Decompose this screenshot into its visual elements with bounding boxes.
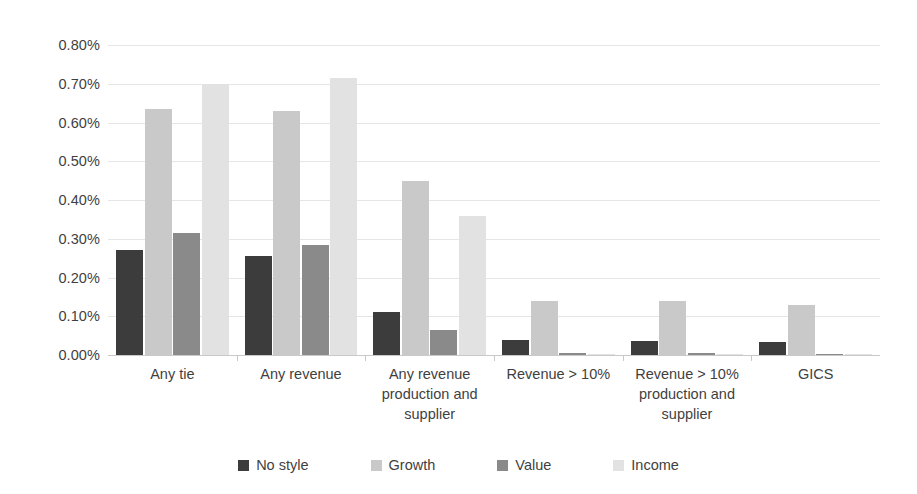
legend-item[interactable]: Income	[613, 457, 679, 473]
bar	[502, 340, 529, 356]
bar	[559, 353, 586, 355]
bar	[245, 256, 272, 355]
bar	[659, 301, 686, 355]
x-axis: Any tieAny revenueAny revenueproduction …	[108, 364, 880, 442]
bar-group	[237, 45, 366, 355]
x-axis-category-line: supplier	[365, 404, 494, 424]
y-axis-tick-label: 0.50%	[28, 154, 100, 169]
y-axis-tick-label: 0.20%	[28, 271, 100, 286]
x-axis-tick	[237, 355, 238, 361]
bar	[145, 109, 172, 355]
y-axis-tick-label: 0.40%	[28, 193, 100, 208]
x-axis-category-line: Any revenue	[237, 364, 366, 384]
x-axis-category-line: production and	[365, 384, 494, 404]
legend-item-label: No style	[256, 457, 308, 473]
bar	[273, 111, 300, 355]
legend-swatch-icon	[238, 460, 249, 471]
bar	[631, 341, 658, 355]
x-axis-category-line: Any tie	[108, 364, 237, 384]
legend-item-label: Income	[631, 457, 679, 473]
bar	[459, 216, 486, 356]
bar	[430, 330, 457, 355]
bar	[373, 312, 400, 355]
bar	[816, 354, 843, 355]
y-axis-tick-label: 0.30%	[28, 232, 100, 247]
x-axis-category-label: Any revenueproduction andsupplier	[365, 364, 494, 424]
legend-item[interactable]: No style	[238, 457, 308, 473]
legend-item[interactable]: Value	[497, 457, 551, 473]
x-axis-category-line: GICS	[751, 364, 880, 384]
bar	[116, 250, 143, 355]
y-axis-tick-label: 0.60%	[28, 116, 100, 131]
bar	[716, 354, 743, 355]
x-axis-category-line: production and	[623, 384, 752, 404]
x-axis-tick	[623, 355, 624, 361]
bar-chart: 0.80%0.70%0.60%0.50%0.40%0.30%0.20%0.10%…	[0, 0, 917, 494]
x-axis-tick	[365, 355, 366, 361]
y-axis-tick-label: 0.70%	[28, 77, 100, 92]
x-axis-category-line: Any revenue	[365, 364, 494, 384]
bar	[788, 305, 815, 355]
x-axis-tick	[751, 355, 752, 361]
legend-swatch-icon	[497, 460, 508, 471]
x-axis-category-label: Any tie	[108, 364, 237, 384]
bar	[330, 78, 357, 355]
legend-item-label: Value	[515, 457, 551, 473]
legend-swatch-icon	[613, 460, 624, 471]
bar-group	[494, 45, 623, 355]
bar	[688, 353, 715, 355]
bar	[531, 301, 558, 355]
y-axis: 0.80%0.70%0.60%0.50%0.40%0.30%0.20%0.10%…	[22, 45, 100, 355]
y-axis-tick-label: 0.80%	[28, 38, 100, 53]
bar-group	[365, 45, 494, 355]
bar	[302, 245, 329, 355]
x-axis-category-label: Revenue > 10%production andsupplier	[623, 364, 752, 424]
legend-item[interactable]: Growth	[371, 457, 436, 473]
bar	[173, 233, 200, 355]
bar-group	[623, 45, 752, 355]
x-axis-category-line: Revenue > 10%	[494, 364, 623, 384]
x-axis-category-label: Any revenue	[237, 364, 366, 384]
legend-item-label: Growth	[389, 457, 436, 473]
x-axis-tick	[494, 355, 495, 361]
x-axis-category-line: Revenue > 10%	[623, 364, 752, 384]
bar-group	[751, 45, 880, 355]
y-axis-tick-label: 0.00%	[28, 348, 100, 363]
x-axis-category-label: Revenue > 10%	[494, 364, 623, 384]
bar	[402, 181, 429, 355]
bar	[202, 84, 229, 355]
bar	[759, 342, 786, 355]
y-axis-tick-label: 0.10%	[28, 309, 100, 324]
x-axis-category-label: GICS	[751, 364, 880, 384]
plot-area	[108, 45, 880, 355]
bar	[845, 354, 872, 355]
x-axis-category-line: supplier	[623, 404, 752, 424]
chart-legend: No styleGrowthValueIncome	[0, 452, 917, 478]
bar-group	[108, 45, 237, 355]
bar	[588, 354, 615, 355]
legend-swatch-icon	[371, 460, 382, 471]
